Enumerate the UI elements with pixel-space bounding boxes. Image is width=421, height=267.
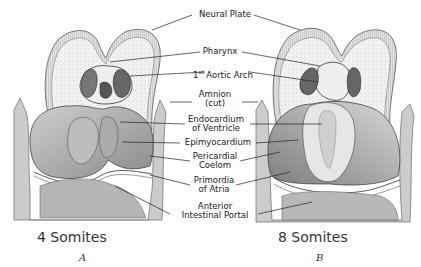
pericardial-line2: Coelom [188, 161, 242, 170]
label-endocardium: Endocardiumof Ventricle [180, 115, 252, 133]
portal-line2: Intestinal Portal [172, 211, 258, 220]
panel-letter-b: B [316, 252, 323, 263]
caption-panel-a: 4 Somites [37, 229, 107, 245]
panel-b-drawing [256, 28, 414, 222]
label-pharynx: Pharynx [195, 47, 245, 56]
label-epimyocardium: Epimyocardium [180, 138, 256, 147]
endocardium-line2: of Ventricle [180, 124, 252, 133]
embryo-heart-figure [0, 0, 421, 267]
aortic-arch-text: Aortic Arch [204, 70, 253, 80]
label-pericardial-coelom: PericardialCoelom [188, 152, 242, 170]
label-amnion: Amnion(cut) [190, 90, 240, 108]
label-intestinal-portal: AnteriorIntestinal Portal [172, 202, 258, 220]
label-neural-plate: Neural Plate [190, 10, 260, 19]
primordia-line2: of Atria [190, 185, 238, 194]
amnion-line2: (cut) [190, 99, 240, 108]
caption-panel-b: 8 Somites [278, 229, 348, 245]
label-aortic-arch: 1st Aortic Arch [190, 68, 256, 80]
panel-letter-a: A [79, 252, 86, 263]
label-primordia-atria: Primordiaof Atria [190, 176, 238, 194]
